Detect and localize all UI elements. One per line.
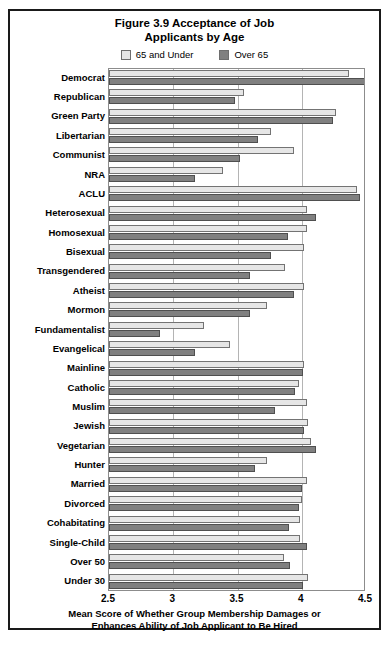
bar-under-65 <box>109 496 302 503</box>
x-axis-ticks: 2.533.544.5 <box>108 593 365 607</box>
bar-row <box>109 437 364 456</box>
y-axis-label: Over 50 <box>10 557 105 567</box>
bar-under-65 <box>109 322 204 329</box>
bar-over-65 <box>109 155 240 162</box>
bar-under-65 <box>109 361 304 368</box>
bar-row <box>109 301 364 320</box>
bar-under-65 <box>109 70 349 77</box>
bar-row <box>109 418 364 437</box>
chart-legend: 65 and UnderOver 65 <box>10 49 379 60</box>
bar-over-65 <box>109 175 195 182</box>
bar-over-65 <box>109 214 316 221</box>
y-axis-label: Mainline <box>10 363 105 373</box>
bar-row <box>109 321 364 340</box>
bar-row <box>109 127 364 146</box>
bar-over-65 <box>109 562 290 569</box>
y-axis-label: Hunter <box>10 460 105 470</box>
bar-under-65 <box>109 438 311 445</box>
bar-row <box>109 553 364 572</box>
legend-swatch-icon <box>121 50 131 60</box>
y-axis-label: Under 30 <box>10 576 105 586</box>
bar-row <box>109 495 364 514</box>
x-tick-label: 3.5 <box>230 593 244 604</box>
bar-under-65 <box>109 341 230 348</box>
bar-under-65 <box>109 283 304 290</box>
bar-under-65 <box>109 380 299 387</box>
bar-over-65 <box>109 349 195 356</box>
bar-row <box>109 224 364 243</box>
y-axis-label: Jewish <box>10 421 105 431</box>
x-axis-title-line-2: Enhances Ability of Job Applicant to Be … <box>10 620 379 632</box>
figure-frame: Figure 3.9 Acceptance of Job Applicants … <box>8 9 381 630</box>
legend-item-0: 65 and Under <box>121 49 194 60</box>
bar-under-65 <box>109 244 304 251</box>
bar-row <box>109 534 364 553</box>
legend-label: Over 65 <box>234 49 268 60</box>
y-axis-label: Mormon <box>10 305 105 315</box>
bar-over-65 <box>109 136 258 143</box>
bar-row <box>109 146 364 165</box>
bar-row <box>109 456 364 475</box>
y-axis-label: Cohabitating <box>10 518 105 528</box>
y-axis-label: Heterosexual <box>10 208 105 218</box>
y-axis-label: Communist <box>10 150 105 160</box>
bar-over-65 <box>109 407 275 414</box>
bar-under-65 <box>109 264 285 271</box>
y-axis-label: Homosexual <box>10 228 105 238</box>
y-axis-label: Divorced <box>10 499 105 509</box>
bar-over-65 <box>109 194 360 201</box>
bar-rows <box>109 69 364 590</box>
bar-under-65 <box>109 554 284 561</box>
y-axis-label: Single-Child <box>10 538 105 548</box>
bar-under-65 <box>109 516 300 523</box>
bar-row <box>109 379 364 398</box>
y-axis-label: Atheist <box>10 286 105 296</box>
bar-row <box>109 340 364 359</box>
y-axis-label: NRA <box>10 170 105 180</box>
bar-over-65 <box>109 233 288 240</box>
chart-title: Figure 3.9 Acceptance of Job Applicants … <box>10 17 379 44</box>
y-axis-label: Evangelical <box>10 344 105 354</box>
bar-under-65 <box>109 535 300 542</box>
bar-under-65 <box>109 186 357 193</box>
bar-under-65 <box>109 128 271 135</box>
bar-row <box>109 108 364 127</box>
bar-under-65 <box>109 574 308 581</box>
bar-over-65 <box>109 465 255 472</box>
bar-over-65 <box>109 582 303 589</box>
y-axis-label: ACLU <box>10 189 105 199</box>
bar-over-65 <box>109 78 365 85</box>
bar-under-65 <box>109 89 244 96</box>
bar-over-65 <box>109 330 160 337</box>
bar-over-65 <box>109 252 271 259</box>
bar-over-65 <box>109 524 289 531</box>
bar-under-65 <box>109 167 223 174</box>
chart-title-line-2: Applicants by Age <box>10 31 379 45</box>
bar-over-65 <box>109 369 303 376</box>
bar-row <box>109 88 364 107</box>
y-axis-label: Republican <box>10 92 105 102</box>
plot-area <box>108 68 365 591</box>
y-axis-label: Muslim <box>10 402 105 412</box>
bar-over-65 <box>109 291 294 298</box>
bar-over-65 <box>109 97 235 104</box>
x-tick-label: 4 <box>298 593 304 604</box>
y-axis-label: Married <box>10 479 105 489</box>
bar-row <box>109 243 364 262</box>
bar-over-65 <box>109 117 333 124</box>
x-axis-title-line-1: Mean Score of Whether Group Membership D… <box>10 608 379 620</box>
bar-row <box>109 573 364 591</box>
chart-title-line-1: Figure 3.9 Acceptance of Job <box>10 17 379 31</box>
bar-under-65 <box>109 477 307 484</box>
x-tick-label: 2.5 <box>101 593 115 604</box>
y-axis-label: Green Party <box>10 111 105 121</box>
y-axis-label: Fundamentalist <box>10 325 105 335</box>
bar-over-65 <box>109 446 316 453</box>
bar-row <box>109 360 364 379</box>
x-axis-title: Mean Score of Whether Group Membership D… <box>10 608 379 632</box>
y-axis-label: Democrat <box>10 73 105 83</box>
y-axis-label: Catholic <box>10 383 105 393</box>
bar-over-65 <box>109 310 250 317</box>
bar-over-65 <box>109 427 304 434</box>
bar-under-65 <box>109 302 267 309</box>
